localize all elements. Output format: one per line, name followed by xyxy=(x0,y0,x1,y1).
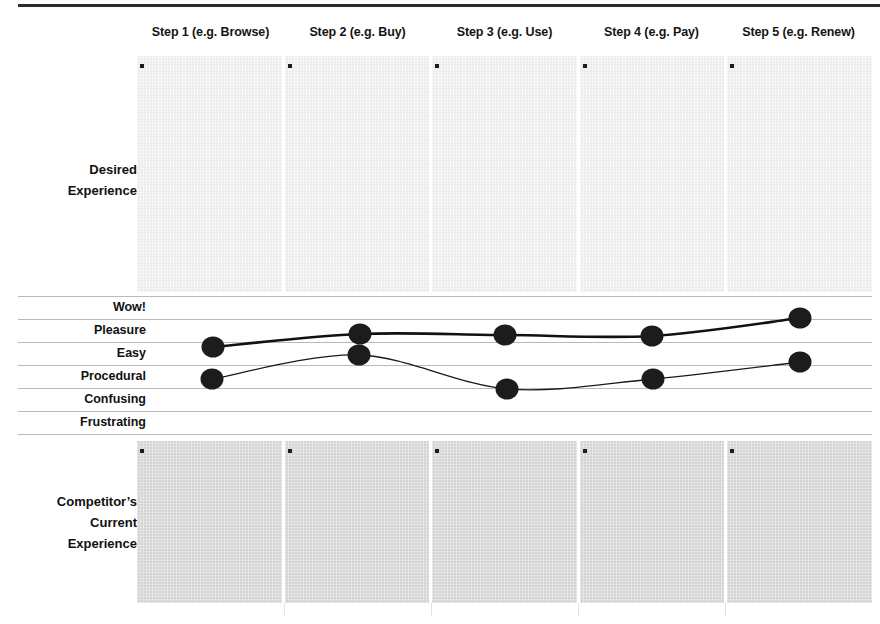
scale-rule-5 xyxy=(18,411,872,412)
competitor-column-step-2[interactable] xyxy=(285,441,430,603)
desired-experience-panel xyxy=(137,56,872,292)
bullet-marker-icon xyxy=(140,64,144,68)
experience-scale: Wow! Pleasure Easy Procedural Confusing … xyxy=(0,296,880,444)
competitor-column-step-5[interactable] xyxy=(727,441,872,603)
bullet-marker-icon xyxy=(288,64,292,68)
top-divider-rule xyxy=(18,4,880,7)
bullet-marker-icon xyxy=(730,449,734,453)
bullet-marker-icon xyxy=(730,64,734,68)
step-header-4: Step 4 (e.g. Pay) xyxy=(578,20,725,44)
competitor-experience-caption: Competitor’s Current Experience xyxy=(0,491,137,554)
competitor-column-step-1[interactable] xyxy=(137,441,282,603)
desired-caption-line-1: Desired xyxy=(0,159,137,180)
competitor-column-step-4[interactable] xyxy=(580,441,725,603)
step-header-3: Step 3 (e.g. Use) xyxy=(431,20,578,44)
scale-label-confusing: Confusing xyxy=(0,388,146,411)
scale-rule-top xyxy=(18,296,872,297)
scale-rule-1 xyxy=(18,319,872,320)
bullet-marker-icon xyxy=(435,64,439,68)
desired-column-step-2[interactable] xyxy=(285,56,430,292)
competitor-caption-line-3: Experience xyxy=(0,533,137,554)
desired-column-step-3[interactable] xyxy=(432,56,577,292)
column-divider-4 xyxy=(725,603,726,616)
step-header-1: Step 1 (e.g. Browse) xyxy=(137,20,284,44)
competitor-column-step-3[interactable] xyxy=(432,441,577,603)
scale-label-pleasure: Pleasure xyxy=(0,319,146,342)
desired-caption-line-2: Experience xyxy=(0,180,137,201)
competitor-caption-line-1: Competitor’s xyxy=(0,491,137,512)
bullet-marker-icon xyxy=(435,449,439,453)
desired-column-step-4[interactable] xyxy=(580,56,725,292)
desired-experience-caption: Desired Experience xyxy=(0,159,137,201)
scale-label-wow: Wow! xyxy=(0,296,146,319)
bullet-marker-icon xyxy=(583,449,587,453)
scale-label-easy: Easy xyxy=(0,342,146,365)
column-divider-3 xyxy=(578,603,579,616)
column-divider-2 xyxy=(431,603,432,616)
bullet-marker-icon xyxy=(288,449,292,453)
scale-rule-bottom xyxy=(18,434,872,435)
step-header-2: Step 2 (e.g. Buy) xyxy=(284,20,431,44)
scale-rule-2 xyxy=(18,342,872,343)
column-divider-1 xyxy=(284,603,285,616)
desired-column-step-5[interactable] xyxy=(727,56,872,292)
scale-rule-4 xyxy=(18,388,872,389)
bullet-marker-icon xyxy=(583,64,587,68)
competitor-caption-line-2: Current xyxy=(0,512,137,533)
competitor-experience-panel xyxy=(137,441,872,603)
scale-label-frustrating: Frustrating xyxy=(0,411,146,434)
bullet-marker-icon xyxy=(140,449,144,453)
desired-column-step-1[interactable] xyxy=(137,56,282,292)
scale-rule-3 xyxy=(18,365,872,366)
step-header-row: Step 1 (e.g. Browse) Step 2 (e.g. Buy) S… xyxy=(137,20,872,44)
step-header-5: Step 5 (e.g. Renew) xyxy=(725,20,872,44)
scale-label-procedural: Procedural xyxy=(0,365,146,388)
